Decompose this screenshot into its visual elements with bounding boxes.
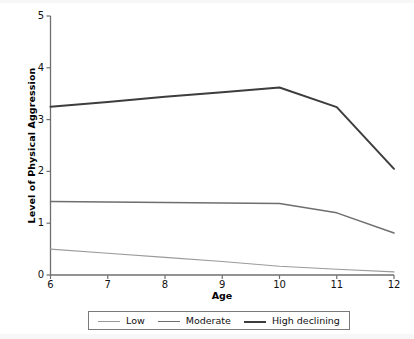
x-tick-label: 8 [153,279,177,290]
y-tick-label: 1 [28,218,44,228]
data-series-lines [51,87,395,271]
y-tick-label: 2 [28,166,44,176]
x-tick-label: 11 [325,279,349,290]
y-tick-label: 3 [28,115,44,125]
axis-ticks [47,16,395,279]
chart-figure: Level of Physical Aggression 012345 6789… [0,0,414,339]
chart-legend: LowModerateHigh declining [88,311,350,330]
series-line-low [51,249,395,272]
axis-lines [51,16,395,275]
x-tick-label: 10 [268,279,292,290]
y-tick-label: 4 [28,63,44,73]
x-tick-label: 12 [382,279,406,290]
y-tick-label: 5 [28,11,44,21]
legend-label: High declining [272,315,340,326]
legend-entry-low: Low [98,315,145,326]
legend-entry-high-declining: High declining [244,315,340,326]
x-tick-label: 9 [210,279,234,290]
legend-label: Low [126,315,145,326]
x-tick-label: 6 [39,279,63,290]
legend-label: Moderate [186,315,231,326]
series-line-high-declining [51,87,395,168]
legend-entry-moderate: Moderate [158,315,231,326]
legend-line-swatch [244,319,266,322]
x-axis-title: Age [50,290,394,301]
x-tick-label: 7 [96,279,120,290]
legend-line-swatch [158,319,180,322]
legend-line-swatch [98,319,120,322]
series-line-moderate [51,201,395,233]
